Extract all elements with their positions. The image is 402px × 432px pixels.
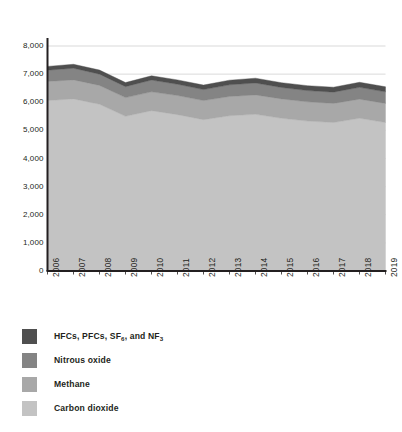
x-axis-tick-label: 2008 xyxy=(104,258,112,277)
x-axis-tick-label: 2006 xyxy=(52,258,60,277)
y-axis-tick-label: 3,000 xyxy=(23,183,44,191)
legend-swatch-methane xyxy=(22,377,37,392)
x-axis-tick-label: 2014 xyxy=(260,258,268,277)
x-axis-tick-label: 2019 xyxy=(390,258,398,277)
x-axis-tick-label: 2018 xyxy=(364,258,372,277)
x-axis-tick-label: 2007 xyxy=(78,258,86,277)
x-axis-tick-label: 2016 xyxy=(312,258,320,277)
y-axis-tick-label: 8,000 xyxy=(23,42,44,50)
legend-label-carbon-dioxide: Carbon dioxide xyxy=(54,404,119,413)
stacked-area-chart: 8,0007,0006,0005,0004,0003,0002,0001,000… xyxy=(0,0,402,320)
x-axis-tick-label: 2017 xyxy=(338,258,346,277)
legend-subscript: 3 xyxy=(160,335,164,342)
chart-legend: HFCs, PFCs, SF6, and NF3Nitrous oxideMet… xyxy=(0,322,402,432)
x-axis-tick-label: 2013 xyxy=(234,258,242,277)
legend-swatch-nitrous-oxide xyxy=(22,353,37,368)
legend-item-nitrous-oxide: Nitrous oxide xyxy=(22,352,111,368)
y-axis-tick-label: 2,000 xyxy=(23,211,44,219)
y-axis-tick-label: 7,000 xyxy=(23,70,44,78)
x-axis-tick-label: 2012 xyxy=(208,258,216,277)
y-axis-tick-label: 4,000 xyxy=(23,155,44,163)
x-axis-tick-label: 2011 xyxy=(182,258,190,277)
area-series-group xyxy=(48,64,386,271)
area-series-0 xyxy=(48,99,386,271)
legend-swatch-carbon-dioxide xyxy=(22,401,37,416)
legend-swatch-fluorinated-gases xyxy=(22,329,37,344)
figure: 8,0007,0006,0005,0004,0003,0002,0001,000… xyxy=(0,0,402,432)
legend-label-nitrous-oxide: Nitrous oxide xyxy=(54,356,111,365)
x-axis-tick-label: 2009 xyxy=(130,258,138,277)
y-axis-tick-label: 6,000 xyxy=(23,98,44,106)
legend-item-carbon-dioxide: Carbon dioxide xyxy=(22,400,119,416)
legend-item-fluorinated-gases: HFCs, PFCs, SF6, and NF3 xyxy=(22,328,163,344)
legend-subscript: 6 xyxy=(121,335,125,342)
x-axis-tick-label: 2015 xyxy=(286,258,294,277)
legend-label-fluorinated-gases: HFCs, PFCs, SF6, and NF3 xyxy=(54,332,163,341)
y-axis-tick-label: 5,000 xyxy=(23,126,44,134)
y-axis-tick-label: 1,000 xyxy=(23,239,44,247)
x-axis-tick-label: 2010 xyxy=(156,258,164,277)
legend-item-methane: Methane xyxy=(22,376,90,392)
y-axis-tick-label: 0 xyxy=(39,267,44,275)
legend-label-methane: Methane xyxy=(54,380,90,389)
